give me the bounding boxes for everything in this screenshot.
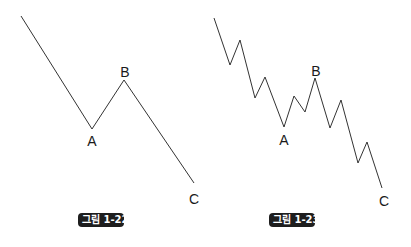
fig2-label-a: A (279, 133, 288, 147)
fig1-label-b: B (120, 65, 129, 79)
fig1-label-c: C (189, 192, 199, 206)
fig1-caption: 그림 1-22 (78, 213, 124, 227)
fig2-caption: 그림 1-23 (269, 213, 315, 227)
fig1-label-a: A (87, 134, 96, 148)
wave-diagrams (0, 0, 411, 247)
fig2-label-c: C (379, 194, 389, 208)
fig2-label-b: B (311, 64, 320, 78)
zigzag-abc-simple-line (21, 16, 194, 183)
zigzag-abc-complex-line (214, 18, 382, 188)
